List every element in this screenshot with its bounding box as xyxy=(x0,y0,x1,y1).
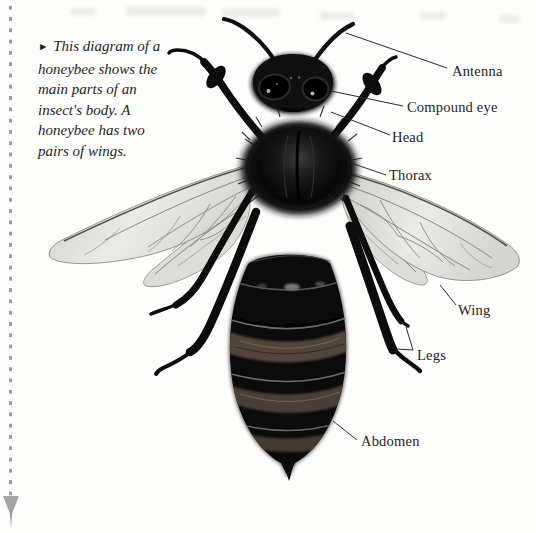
leader-legs-fork xyxy=(396,327,413,350)
label-abdomen: Abdomen xyxy=(361,433,420,450)
leader-abdomen xyxy=(333,421,357,440)
label-head: Head xyxy=(392,129,423,146)
head-part xyxy=(251,54,335,114)
caption-arrow-icon: ► xyxy=(38,41,49,52)
caption-text: This diagram of a honeybee shows the mai… xyxy=(38,38,160,159)
label-thorax: Thorax xyxy=(389,167,432,184)
label-legs: Legs xyxy=(417,347,446,364)
label-compound-eye: Compound eye xyxy=(407,99,498,116)
thorax-part xyxy=(236,101,362,215)
figure-caption: ► This diagram of a honeybee shows the m… xyxy=(38,36,166,162)
leader-antenna xyxy=(346,33,447,68)
book-page: ► This diagram of a honeybee shows the m… xyxy=(0,0,536,533)
ocellus xyxy=(298,76,301,79)
abdomen-part xyxy=(229,255,347,481)
leader-wing xyxy=(440,285,456,305)
label-antenna: Antenna xyxy=(452,63,503,80)
label-wing: Wing xyxy=(458,302,490,319)
ocellus xyxy=(290,77,293,80)
